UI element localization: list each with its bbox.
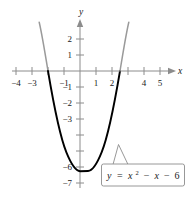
y-tick-label-pos1: 1: [68, 50, 73, 60]
curve-segment-upper-right: [120, 22, 129, 71]
y-tick-label-pos2: 2: [68, 34, 73, 44]
parabola-figure: −4 −3 −1 1 2 4 5 2 1 −1 −2 −3 −6 −7 x y: [0, 0, 192, 197]
equation-lhs: y: [106, 170, 112, 181]
x-tick-labels: −4 −3 −1 1 2 4 5: [11, 78, 163, 88]
y-tick-label-neg1: −1: [62, 82, 72, 92]
y-tick-labels: 2 1 −1 −2 −3 −6 −7: [62, 34, 72, 188]
axes-group: [12, 19, 176, 188]
equation-equals: =: [117, 170, 123, 181]
y-axis-arrowhead: [77, 19, 83, 27]
y-tick-label-neg3: −3: [62, 114, 72, 124]
equation-term3: 6: [175, 170, 180, 181]
x-tick-label-neg4: −4: [11, 78, 21, 88]
y-tick-label-neg7: −7: [62, 178, 72, 188]
x-tick-label-pos4: 4: [142, 78, 147, 88]
parabola-curve: [39, 22, 129, 171]
graph-canvas: −4 −3 −1 1 2 4 5 2 1 −1 −2 −3 −6 −7 x y: [0, 0, 192, 197]
equation-term1-exponent: 2: [136, 169, 139, 176]
curve-segment-upper-left: [39, 22, 48, 71]
y-tick-label-neg2: −2: [62, 98, 72, 108]
equation-term1-base: x: [127, 170, 133, 181]
x-tick-label-neg3: −3: [27, 78, 37, 88]
equation-term2: x: [153, 170, 159, 181]
x-axis-arrowhead: [168, 68, 176, 74]
x-tick-label-pos1: 1: [94, 78, 99, 88]
x-tick-label-pos5: 5: [158, 78, 163, 88]
callout-pointer: [113, 145, 128, 165]
equation-minus-2: −: [164, 170, 170, 181]
x-axis-label: x: [177, 66, 183, 76]
x-tick-label-pos2: 2: [110, 78, 115, 88]
y-axis-label: y: [78, 7, 84, 17]
equation-minus-1: −: [144, 170, 150, 181]
